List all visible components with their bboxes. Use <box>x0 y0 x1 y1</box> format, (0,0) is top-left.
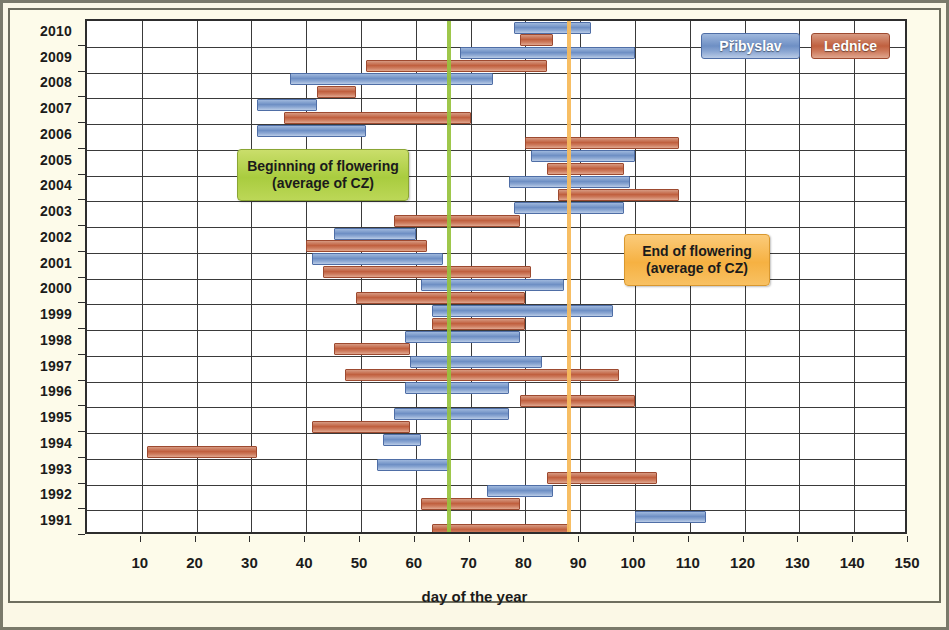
y-axis-tick-1992 <box>78 508 85 509</box>
y-axis-label-1991: 1991 <box>0 512 72 528</box>
y-axis-label-1997: 1997 <box>0 358 72 374</box>
gridline-y-1993 <box>87 459 905 460</box>
gridline-y-2001 <box>87 253 905 254</box>
bar-lednice-1992 <box>421 498 520 510</box>
bar-lednice-1996 <box>520 395 635 407</box>
bar-pibyslav-2005 <box>531 150 635 162</box>
x-axis-label-110: 110 <box>666 554 710 571</box>
y-axis-tick-1994 <box>78 457 85 458</box>
x-axis-label-10: 10 <box>118 554 162 571</box>
gridline-y-2003 <box>87 201 905 202</box>
y-axis-tick-1991 <box>78 534 85 535</box>
y-axis-label-2006: 2006 <box>0 126 72 142</box>
x-axis-tick-150 <box>907 536 908 542</box>
x-axis-label-150: 150 <box>885 554 929 571</box>
x-axis-title: day of the year <box>0 588 949 605</box>
bar-pibyslav-1998 <box>405 331 520 343</box>
y-axis-label-2009: 2009 <box>0 49 72 65</box>
y-axis-label-1999: 1999 <box>0 306 72 322</box>
y-axis-label-2001: 2001 <box>0 255 72 271</box>
y-axis-tick-1996 <box>78 405 85 406</box>
legend-item-lednice[interactable]: Lednice <box>811 33 890 59</box>
x-axis-label-70: 70 <box>447 554 491 571</box>
y-axis-label-1993: 1993 <box>0 461 72 477</box>
y-axis-tick-1997 <box>78 380 85 381</box>
y-axis-tick-2005 <box>78 174 85 175</box>
gridline-y-2005 <box>87 150 905 151</box>
bar-lednice-2008 <box>317 86 355 98</box>
gridline-y-2002 <box>87 227 905 228</box>
y-axis-tick-2008 <box>78 96 85 97</box>
x-axis-tick-110 <box>688 536 689 542</box>
x-axis-label-40: 40 <box>282 554 326 571</box>
bar-lednice-1994 <box>147 446 257 458</box>
y-axis-tick-2004 <box>78 199 85 200</box>
x-axis-tick-90 <box>578 536 579 542</box>
legend-item-pibyslav[interactable]: Přibyslav <box>701 33 800 59</box>
bar-pibyslav-2008 <box>290 73 493 85</box>
reference-line-end-of-flowering <box>567 21 571 532</box>
annotation-end-line1: End of flowering <box>642 243 752 261</box>
bar-pibyslav-1994 <box>383 434 421 446</box>
x-axis-tick-140 <box>852 536 853 542</box>
x-axis-tick-50 <box>359 536 360 542</box>
x-axis-tick-40 <box>304 536 305 542</box>
bar-lednice-2010 <box>520 34 553 46</box>
bar-lednice-2004 <box>558 189 679 201</box>
y-axis-tick-1998 <box>78 354 85 355</box>
x-axis-tick-100 <box>633 536 634 542</box>
bar-pibyslav-2002 <box>334 228 416 240</box>
gridline-y-1994 <box>87 433 905 434</box>
bar-lednice-2003 <box>394 215 520 227</box>
gridline-y-2004 <box>87 176 905 177</box>
bar-pibyslav-2007 <box>257 99 317 111</box>
y-axis-label-1996: 1996 <box>0 383 72 399</box>
x-axis-label-30: 30 <box>227 554 271 571</box>
y-axis-label-2004: 2004 <box>0 177 72 193</box>
bar-pibyslav-1992 <box>487 485 553 497</box>
bar-lednice-1997 <box>345 369 619 381</box>
gridline-y-2008 <box>87 73 905 74</box>
bar-lednice-2002 <box>306 240 427 252</box>
bar-lednice-2009 <box>366 60 547 72</box>
reference-line-beginning-of-flowering <box>447 21 451 532</box>
y-axis-label-2002: 2002 <box>0 229 72 245</box>
y-axis-tick-2003 <box>78 225 85 226</box>
x-axis-label-120: 120 <box>721 554 765 571</box>
bar-lednice-1991 <box>432 524 569 534</box>
gridline-y-2006 <box>87 124 905 125</box>
chart-frame: 2010200920082007200620052004200320022001… <box>0 0 949 630</box>
x-axis-tick-30 <box>249 536 250 542</box>
y-axis-tick-2001 <box>78 277 85 278</box>
gridline-y-2007 <box>87 98 905 99</box>
x-axis-tick-70 <box>469 536 470 542</box>
bar-pibyslav-2000 <box>421 279 563 291</box>
y-axis-tick-2006 <box>78 148 85 149</box>
x-axis-label-90: 90 <box>556 554 600 571</box>
y-axis-label-2008: 2008 <box>0 74 72 90</box>
bar-lednice-2005 <box>547 163 624 175</box>
bar-lednice-1998 <box>334 343 411 355</box>
y-axis-tick-2002 <box>78 251 85 252</box>
bar-pibyslav-2001 <box>312 253 444 265</box>
bar-lednice-2007 <box>284 112 470 124</box>
y-axis-tick-1995 <box>78 431 85 432</box>
bar-pibyslav-2010 <box>514 22 591 34</box>
x-axis-label-80: 80 <box>501 554 545 571</box>
bar-pibyslav-1999 <box>432 305 613 317</box>
bar-lednice-2000 <box>356 292 526 304</box>
bar-pibyslav-1997 <box>410 356 542 368</box>
x-axis-label-20: 20 <box>173 554 217 571</box>
y-axis-tick-2007 <box>78 122 85 123</box>
bar-lednice-1995 <box>312 421 411 433</box>
bar-pibyslav-2006 <box>257 125 367 137</box>
bar-pibyslav-1993 <box>377 459 448 471</box>
x-axis-tick-60 <box>414 536 415 542</box>
x-axis-tick-80 <box>523 536 524 542</box>
y-axis-label-2000: 2000 <box>0 280 72 296</box>
plot-area <box>85 19 907 534</box>
y-axis-label-1995: 1995 <box>0 409 72 425</box>
y-axis-tick-2009 <box>78 71 85 72</box>
x-axis-label-140: 140 <box>830 554 874 571</box>
gridline-y-1991 <box>87 510 905 511</box>
